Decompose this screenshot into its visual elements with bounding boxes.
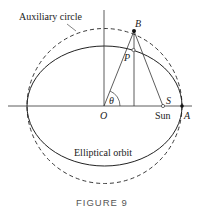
sun-label: Sun xyxy=(155,110,171,121)
point-a-dot xyxy=(180,104,184,108)
line-b-s xyxy=(134,31,163,106)
point-p-dot xyxy=(132,48,135,51)
point-b-dot xyxy=(132,29,136,33)
figure-caption: FIGURE 9 xyxy=(76,197,128,208)
diagram-canvas: Auxiliary circle B P θ S O Sun A Ellipti… xyxy=(0,0,201,212)
point-s-dot xyxy=(161,104,164,107)
elliptical-orbit-label: Elliptical orbit xyxy=(74,147,132,158)
auxiliary-circle-label: Auxiliary circle xyxy=(19,11,83,22)
point-a-label: A xyxy=(183,110,191,121)
angle-theta-label: θ xyxy=(109,95,114,106)
point-o-label: O xyxy=(100,110,107,121)
point-p-label: P xyxy=(123,52,130,63)
point-b-label: B xyxy=(135,18,141,29)
auxiliary-circle-leader xyxy=(67,24,76,31)
point-s-label: S xyxy=(166,95,171,106)
